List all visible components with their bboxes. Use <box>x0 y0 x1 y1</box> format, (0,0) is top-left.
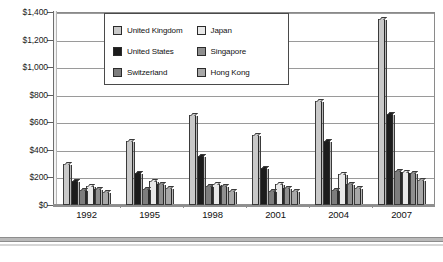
legend-label: United Kingdom <box>127 26 183 35</box>
bar-side-face <box>289 189 292 204</box>
bar-side-face <box>392 115 395 204</box>
bar-group <box>63 12 110 205</box>
bar-side-face <box>69 165 72 204</box>
legend-item: United Kingdom <box>113 26 197 35</box>
legend-swatch-icon <box>113 47 122 56</box>
bar-side-face <box>345 175 348 204</box>
bar-side-face <box>352 185 355 204</box>
bar-side-face <box>234 192 237 204</box>
bar-side-face <box>77 182 80 204</box>
bar-side-face <box>156 182 159 204</box>
legend-swatch-icon <box>197 26 206 35</box>
bar-chart: $0$200$400$600$800$1,000$1,200$1,400 199… <box>0 0 443 262</box>
x-axis-tick <box>246 204 247 208</box>
bar-side-face <box>282 185 285 204</box>
legend-label: Hong Kong <box>211 68 250 77</box>
x-axis-tick-label: 2007 <box>366 209 437 220</box>
y-axis-tick-label: $0 <box>0 200 48 210</box>
bar-side-face <box>408 173 411 204</box>
bar-side-face <box>266 169 269 204</box>
legend-label: Singapore <box>211 47 247 56</box>
bar <box>315 101 322 205</box>
bar-side-face <box>400 172 403 204</box>
x-axis-tick <box>120 204 121 208</box>
legend-grid: United KingdomJapanUnited StatesSingapor… <box>113 20 280 83</box>
x-axis-tick-label: 1995 <box>114 209 185 220</box>
x-axis-tick-label: 1998 <box>177 209 248 220</box>
y-axis-tick-label: $200 <box>0 172 48 182</box>
bar-side-face <box>108 193 111 204</box>
x-axis-tick <box>183 204 184 208</box>
bar-side-face <box>171 189 174 204</box>
legend-label: United States <box>127 47 174 56</box>
legend-item: Hong Kong <box>197 68 281 77</box>
bar-side-face <box>337 191 340 204</box>
bar-side-face <box>274 192 277 204</box>
bar-side-face <box>258 136 261 204</box>
bar-side-face <box>321 102 324 204</box>
bar-group <box>315 12 362 205</box>
legend-swatch-icon <box>197 68 206 77</box>
x-axis-tick <box>372 204 373 208</box>
bar <box>126 141 133 205</box>
bar-side-face <box>211 187 214 204</box>
y-axis-tick-label: $1,000 <box>0 62 48 72</box>
legend-swatch-icon <box>197 47 206 56</box>
x-axis-tick-label: 2001 <box>240 209 311 220</box>
bar-side-face <box>85 191 88 204</box>
y-axis-tick-label: $800 <box>0 90 48 100</box>
bar-side-face <box>93 187 96 204</box>
bar-side-face <box>195 116 198 204</box>
bar-side-face <box>329 142 332 204</box>
bar-side-face <box>203 157 206 204</box>
legend: United KingdomJapanUnited StatesSingapor… <box>104 13 289 85</box>
legend-item: United States <box>113 47 197 56</box>
footer-divider <box>0 237 443 242</box>
x-axis-tick <box>309 204 310 208</box>
legend-swatch-icon <box>113 68 122 77</box>
legend-item: Singapore <box>197 47 281 56</box>
bar <box>189 115 196 205</box>
bar-side-face <box>297 192 300 204</box>
legend-item: Switzerland <box>113 68 197 77</box>
bar-side-face <box>140 174 143 204</box>
y-axis-tick-label: $400 <box>0 145 48 155</box>
legend-label: Switzerland <box>127 68 167 77</box>
legend-item: Japan <box>197 26 281 35</box>
x-axis-tick-label: 1992 <box>51 209 122 220</box>
bar-side-face <box>423 181 426 205</box>
bar-side-face <box>226 187 229 204</box>
x-axis-tick-label: 2004 <box>303 209 374 220</box>
bar <box>252 135 259 205</box>
bar-side-face <box>132 142 135 204</box>
y-axis-tick-label: $1,200 <box>0 35 48 45</box>
bar-side-face <box>360 189 363 204</box>
bar <box>378 19 385 205</box>
y-axis-tick-label: $600 <box>0 117 48 127</box>
bar-group <box>378 12 425 205</box>
bar-side-face <box>163 185 166 204</box>
legend-label: Japan <box>211 26 232 35</box>
bar <box>63 164 70 205</box>
bar-side-face <box>219 185 222 204</box>
bar-side-face <box>100 190 103 204</box>
bar-side-face <box>148 190 151 204</box>
bar-side-face <box>415 174 418 204</box>
bar-side-face <box>384 20 387 204</box>
y-axis-tick-label: $1,400 <box>0 7 48 17</box>
footer-divider-secondary <box>0 244 443 246</box>
legend-swatch-icon <box>113 26 122 35</box>
